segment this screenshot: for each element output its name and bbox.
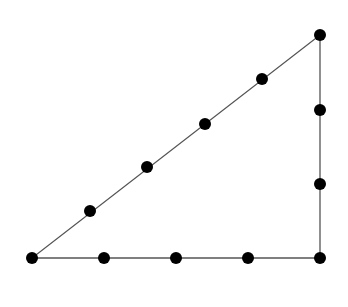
dot-7 — [314, 29, 326, 41]
dot-11 — [84, 205, 96, 217]
triangle-outline — [32, 35, 320, 258]
dot-1 — [98, 252, 110, 264]
dot-0 — [26, 252, 38, 264]
dot-5 — [314, 178, 326, 190]
dot-4 — [314, 252, 326, 264]
triangle-diagram — [0, 0, 348, 307]
dot-2 — [170, 252, 182, 264]
dot-9 — [199, 118, 211, 130]
dot-8 — [256, 73, 268, 85]
dot-3 — [242, 252, 254, 264]
dot-10 — [141, 161, 153, 173]
dot-6 — [314, 104, 326, 116]
